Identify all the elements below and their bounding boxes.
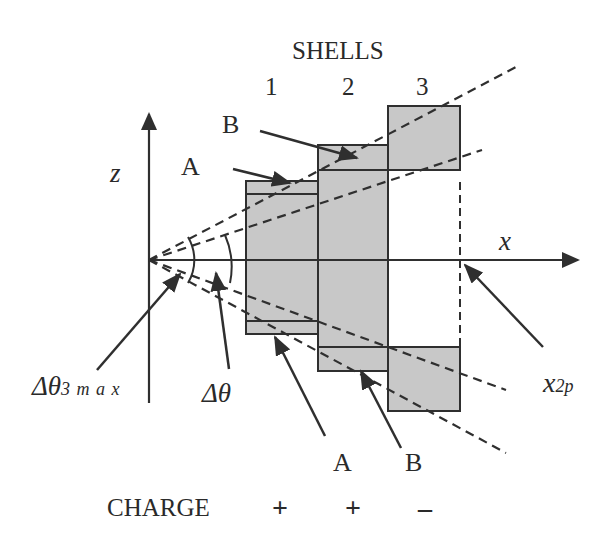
delta-theta-3max-sub: 3 m a x <box>61 379 121 399</box>
x2p-main: x <box>543 367 555 398</box>
x2p-label: x2p <box>543 369 573 397</box>
shell-1-charge: + <box>272 494 288 522</box>
x2p-sub: 2p <box>555 376 573 396</box>
label-a-top: A <box>181 154 200 180</box>
label-b-top: B <box>222 112 239 138</box>
shell-number-1: 1 <box>265 74 278 99</box>
shells-title: SHELLS <box>292 38 384 63</box>
charge-label: CHARGE <box>107 495 210 520</box>
delta-theta-label: Δθ <box>202 380 231 407</box>
shell-2 <box>318 145 388 371</box>
label-a-bottom: A <box>333 450 352 476</box>
shell-number-2: 2 <box>342 74 355 99</box>
shell-3 <box>388 106 460 411</box>
shells-diagram: SHELLS 1 2 3 B A z x Δθ3 m a x Δθ x2p A … <box>0 0 606 553</box>
label-b-bottom: B <box>405 450 422 476</box>
diagram-svg <box>0 0 606 553</box>
shell-number-3: 3 <box>416 74 429 99</box>
shell-3-charge: – <box>418 494 432 522</box>
shell-2-charge: + <box>345 494 361 522</box>
delta-theta-3max-main: Δθ <box>32 371 61 401</box>
z-axis-label: z <box>110 160 121 187</box>
x-axis-label: x <box>499 228 511 255</box>
delta-theta-3max-label: Δθ3 m a x <box>32 373 121 400</box>
